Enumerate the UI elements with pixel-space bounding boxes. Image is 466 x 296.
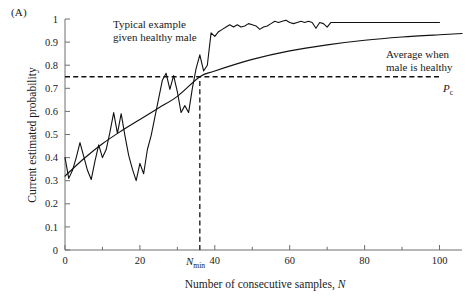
x-tick-label: 20	[135, 255, 146, 266]
figure-panel-a: (A) 00.10.20.30.40.50.60.70.80.91 020406…	[0, 0, 466, 296]
average-annotation: Average when male is healthy	[386, 48, 453, 73]
x-axis-ticks	[65, 245, 440, 250]
x-tick-label: 60	[284, 255, 295, 266]
x-tick-label: 80	[359, 255, 370, 266]
y-tick-label: 0.5	[45, 129, 58, 140]
x-tick-label: 100	[432, 255, 448, 266]
x-tick-label: 40	[210, 255, 221, 266]
minimum-samples-label: Nmin	[185, 255, 205, 270]
typical-example-curve	[65, 20, 440, 181]
y-tick-label: 0.6	[45, 106, 58, 117]
x-axis-tick-labels: 020406080100	[62, 255, 447, 266]
typical-example-annotation-line1: Typical example	[113, 18, 186, 30]
x-axis-title: Number of consecutive samples, N	[185, 278, 347, 291]
y-axis-ticks	[65, 19, 70, 250]
y-axis-tick-labels: 00.10.20.30.40.50.60.70.80.91	[45, 14, 59, 256]
y-axis-title: Current estimated probability	[26, 67, 39, 203]
average-annotation-line1: Average when	[386, 48, 450, 60]
average-annotation-line2: male is healthy	[386, 61, 453, 73]
y-tick-label: 0.9	[45, 37, 58, 48]
typical-example-annotation: Typical example given healthy male	[113, 18, 197, 43]
y-tick-label: 0.8	[45, 60, 58, 71]
x-tick-label: 0	[62, 255, 67, 266]
y-tick-label: 0.1	[45, 222, 58, 233]
typical-example-annotation-line2: given healthy male	[113, 31, 197, 43]
y-tick-label: 0	[53, 245, 58, 256]
y-tick-label: 0.4	[45, 152, 59, 163]
y-tick-label: 0.2	[45, 198, 58, 209]
critical-probability-label: Pc	[442, 82, 454, 97]
y-tick-label: 0.3	[45, 175, 58, 186]
y-tick-label: 0.7	[45, 83, 58, 94]
y-tick-label: 1	[53, 14, 58, 25]
chart-canvas: 00.10.20.30.40.50.60.70.80.91 0204060801…	[0, 0, 466, 296]
